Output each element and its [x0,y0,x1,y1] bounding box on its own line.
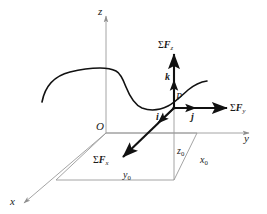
axis-x [24,133,106,203]
unit-vector-j-label: j [191,112,194,122]
point-p-label: P [176,92,182,102]
axis-z-label: z [98,6,102,17]
axis-x-label: x [10,196,15,207]
unit-vector-k-label: k [165,72,170,82]
origin-label: O [96,121,104,132]
diagram-svg [0,0,267,214]
force-f-glyph-y: F [236,102,243,113]
force-subscript-z: z [171,44,174,51]
coordinate-x0-label: x0 [200,155,208,167]
x0-subscript: 0 [204,159,207,166]
force-sum-fz-label: ΣFz [158,40,173,52]
force-sum-fy-label: ΣFy [230,103,246,115]
y0-subscript: 0 [127,174,130,181]
point-p-marker [172,106,175,109]
force-f-glyph-z: F [164,39,171,50]
axis-y-label: y [244,133,249,144]
force-sum-fx-label: ΣFx [93,155,109,167]
coordinate-frame [24,16,249,203]
unit-vector-i [158,108,174,123]
z0-subscript: 0 [181,150,184,157]
force-subscript-y: y [243,107,246,114]
force-f-glyph-x: F [99,154,106,165]
coordinate-y0-label: y0 [123,170,131,182]
data-curve [42,68,207,110]
figure-canvas: z y x O P k j i ΣFz ΣFy ΣFx z0 x0 y0 [0,0,267,214]
coordinate-z0-label: z0 [177,146,184,158]
unit-vector-i-label: i [156,112,159,122]
force-subscript-x: x [106,159,109,166]
